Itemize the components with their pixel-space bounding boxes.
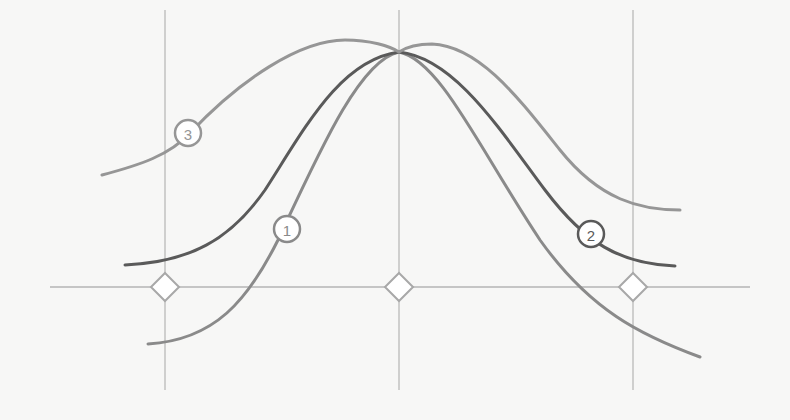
curve-label-3: 3 bbox=[175, 120, 201, 146]
bell-curves-diagram: 123 bbox=[0, 0, 790, 420]
curve-1 bbox=[148, 52, 700, 357]
center-marker-diamond-icon bbox=[385, 273, 413, 301]
right-marker-diamond-icon bbox=[619, 273, 647, 301]
label-number: 3 bbox=[184, 126, 192, 143]
diagram-canvas: 123 bbox=[0, 0, 790, 420]
label-number: 1 bbox=[283, 222, 291, 239]
left-marker-diamond-icon bbox=[151, 273, 179, 301]
label-number: 2 bbox=[587, 227, 595, 244]
curve-label-2: 2 bbox=[578, 221, 604, 247]
curve-label-1: 1 bbox=[274, 216, 300, 242]
curves bbox=[102, 40, 700, 357]
